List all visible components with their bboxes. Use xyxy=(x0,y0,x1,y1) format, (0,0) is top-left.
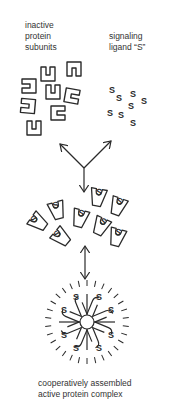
active-complex: S S S S S S S S xyxy=(45,280,129,364)
svg-text:S: S xyxy=(96,343,102,353)
svg-text:S: S xyxy=(116,93,122,103)
diagram-canvas: S S S S S S S S S xyxy=(0,0,173,406)
bound-subunits-cluster xyxy=(25,186,129,249)
svg-text:S: S xyxy=(107,108,113,118)
svg-text:S: S xyxy=(130,118,136,128)
inactive-subunits-cluster xyxy=(20,62,81,135)
svg-text:S: S xyxy=(108,330,114,340)
svg-text:S: S xyxy=(130,89,136,99)
svg-text:S: S xyxy=(73,292,79,302)
svg-text:S: S xyxy=(61,330,67,340)
svg-text:S: S xyxy=(109,85,115,95)
svg-text:S: S xyxy=(73,343,79,353)
svg-text:S: S xyxy=(61,305,67,315)
svg-text:S: S xyxy=(96,292,102,302)
svg-text:S: S xyxy=(118,110,124,120)
svg-text:S: S xyxy=(128,101,134,111)
svg-text:S: S xyxy=(141,96,147,106)
merge-arrows xyxy=(60,141,111,192)
svg-text:S: S xyxy=(108,305,114,315)
ligand-cluster: S S S S S S S S xyxy=(107,85,147,128)
